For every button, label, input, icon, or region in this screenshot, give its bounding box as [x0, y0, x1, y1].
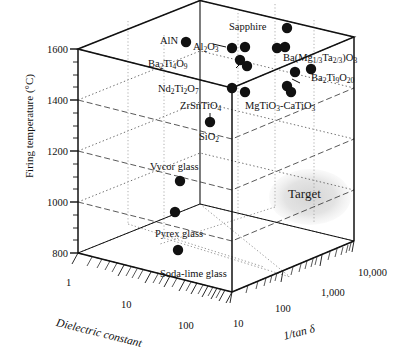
point-label-zrsntio4: ZrSnTiO4 — [180, 100, 221, 113]
data-point — [286, 87, 296, 97]
grid-floor-lines — [128, 204, 290, 277]
point-label-nd2ti2o7: Nd2Ti2O7 — [158, 83, 199, 96]
point-label-aln: AlN — [160, 35, 178, 46]
data-point — [170, 207, 180, 217]
data-point — [175, 176, 185, 186]
x-tick-10: 10 — [121, 299, 132, 310]
data-point — [205, 117, 215, 127]
y-tick-1400: 1400 — [36, 95, 68, 106]
point-label-bamgta: Ba(Mg1/3Ta2/3)O3 — [283, 52, 357, 65]
point-label-sapphire: Sapphire — [229, 21, 266, 32]
z-tick-10: 10 — [233, 318, 244, 329]
y-tick-1600: 1600 — [36, 44, 68, 55]
target-annotation-label: Target — [288, 186, 321, 202]
x-tick-100: 100 — [178, 320, 194, 331]
y-tick-800: 800 — [36, 248, 68, 259]
y-tick-1200: 1200 — [36, 146, 68, 157]
point-label-ba2ti4o9: Ba2Ti4O9 — [148, 58, 187, 71]
data-point — [227, 83, 237, 93]
z-tick-10000: 10,000 — [358, 267, 387, 278]
data-point — [181, 37, 191, 47]
point-label-ba2ti9o20: Ba2Ti9O20 — [311, 72, 354, 85]
y-axis-label: Firing temperature (°C) — [23, 51, 35, 201]
point-label-vycor: Vycor glass — [150, 161, 199, 172]
data-point — [242, 61, 252, 71]
x-tick-1: 1 — [66, 277, 71, 288]
data-point — [280, 42, 290, 52]
point-label-pyrex: Pyrex glass — [155, 228, 203, 239]
data-point — [227, 43, 237, 53]
y-axis-ticks — [70, 49, 78, 253]
y-tick-1000: 1000 — [36, 197, 68, 208]
data-point — [240, 42, 250, 52]
point-label-mgtio3: MgTiO3-CaTiO3 — [245, 100, 315, 113]
data-point — [173, 245, 183, 255]
point-label-sio2: SiO2 — [199, 131, 219, 144]
data-point — [290, 67, 300, 77]
point-label-al2o3: Al2O3 — [193, 41, 219, 54]
z-tick-100: 100 — [275, 303, 291, 314]
data-point — [282, 23, 292, 33]
chart-figure: Firing temperature (°C) 1600 1400 1200 1… — [0, 0, 420, 363]
z-tick-1000: 1,000 — [321, 287, 345, 298]
data-point — [240, 87, 250, 97]
point-label-sodalime: Soda-lime glass — [160, 268, 227, 279]
